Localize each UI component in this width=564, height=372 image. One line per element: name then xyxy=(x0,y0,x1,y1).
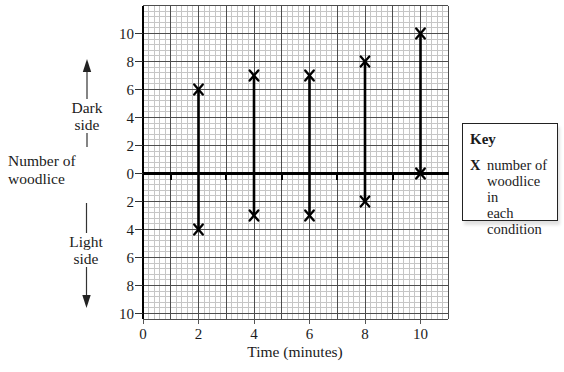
x-axis-tick-label: 6 xyxy=(295,326,325,342)
y-axis-tick-label: 2 xyxy=(100,194,134,210)
x-axis-tick-label: 10 xyxy=(406,326,436,342)
woodlice-chart-figure: Number of woodlice Dark side Light side … xyxy=(0,0,564,372)
y-axis-tick-label: 10 xyxy=(100,306,134,322)
y-axis-tick-label: 4 xyxy=(100,110,134,126)
x-axis-title: Time (minutes) xyxy=(170,343,420,361)
key-legend-box: Key X number of woodlice in each conditi… xyxy=(462,123,558,221)
x-axis-tick-label: 8 xyxy=(350,326,380,342)
y-axis-tick-label: 4 xyxy=(100,222,134,238)
y-axis-tick-label: 0 xyxy=(100,166,134,182)
light-side-label-line2: side xyxy=(72,250,101,267)
grid-fine-lines xyxy=(143,6,448,320)
dark-side-label-line2: side xyxy=(73,116,102,133)
x-axis-tick-label: 4 xyxy=(239,326,269,342)
y-axis-tick-label: 2 xyxy=(100,138,134,154)
x-axis-tick-label: 0 xyxy=(128,326,158,342)
key-marker-symbol: X xyxy=(470,157,487,237)
y-axis-tick-label: 6 xyxy=(100,82,134,98)
y-axis-tick-label: 10 xyxy=(100,26,134,42)
y-axis-tick-label: 8 xyxy=(100,278,134,294)
key-entry: X number of woodlice in each condition xyxy=(470,157,553,237)
key-title: Key xyxy=(470,131,553,147)
x-axis-tick-label: 2 xyxy=(184,326,214,342)
key-entry-text: number of woodlice in each condition xyxy=(487,157,553,237)
y-axis-tick-label: 8 xyxy=(100,54,134,70)
y-axis-tick-label: 6 xyxy=(100,250,134,266)
